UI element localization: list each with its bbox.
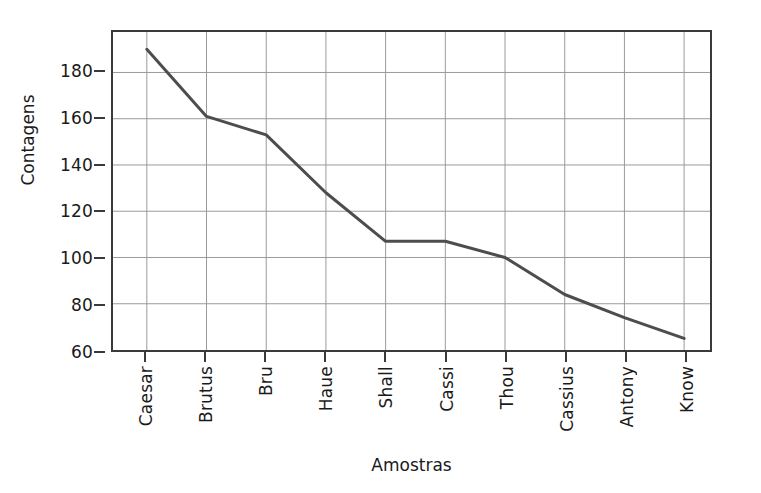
x-tick-mark bbox=[144, 352, 146, 362]
x-tick-label: Know bbox=[677, 366, 697, 413]
x-tick-mark bbox=[264, 352, 266, 362]
x-tick-label: Caesar bbox=[136, 366, 156, 426]
x-tick-label: Cassius bbox=[557, 366, 577, 432]
x-tick-label: Antony bbox=[617, 366, 637, 428]
x-tick-label: Shall bbox=[376, 366, 396, 408]
x-tick-mark bbox=[204, 352, 206, 362]
x-tick-mark bbox=[384, 352, 386, 362]
x-axis: CaesarBrutusBruHaueShallCassiThouCassius… bbox=[0, 0, 761, 493]
x-tick-label: Brutus bbox=[196, 366, 216, 423]
x-tick-mark bbox=[565, 352, 567, 362]
x-tick-label: Haue bbox=[316, 366, 336, 411]
x-tick-mark bbox=[324, 352, 326, 362]
x-tick-mark bbox=[625, 352, 627, 362]
x-tick-mark bbox=[505, 352, 507, 362]
x-tick-mark bbox=[685, 352, 687, 362]
x-tick-label: Cassi bbox=[437, 366, 457, 412]
x-axis-title: Amostras bbox=[111, 455, 712, 475]
x-tick-mark bbox=[445, 352, 447, 362]
x-tick-label: Bru bbox=[256, 366, 276, 396]
x-tick-label: Thou bbox=[497, 366, 517, 409]
line-chart: 6080100120140160180 Contagens CaesarBrut… bbox=[0, 0, 761, 493]
